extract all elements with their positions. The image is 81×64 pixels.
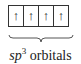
up-arrow-icon: ↑ bbox=[13, 8, 20, 24]
label-suffix: orbitals bbox=[26, 48, 72, 63]
orbital-box: ↑ bbox=[38, 5, 54, 27]
hybrid-label: sp bbox=[9, 48, 21, 63]
orbital-box: ↑ bbox=[23, 5, 39, 27]
orbital-box: ↑ bbox=[8, 5, 24, 27]
orbital-box: ↑ bbox=[53, 5, 69, 27]
orbital-label: sp3 orbitals bbox=[0, 46, 81, 64]
orbital-boxes: ↑ ↑ ↑ ↑ bbox=[8, 5, 69, 27]
up-arrow-icon: ↑ bbox=[58, 8, 65, 24]
brace-icon bbox=[8, 34, 74, 43]
up-arrow-icon: ↑ bbox=[43, 8, 50, 24]
up-arrow-icon: ↑ bbox=[28, 8, 35, 24]
